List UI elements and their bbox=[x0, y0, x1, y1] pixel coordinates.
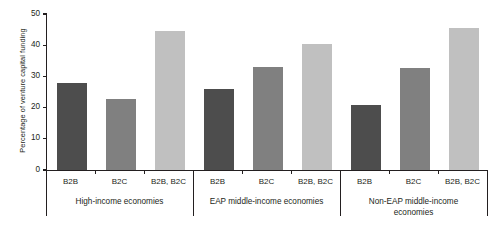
group-label-line: Non-EAP middle-income bbox=[340, 197, 487, 208]
x-axis-category-label: B2C bbox=[389, 177, 438, 186]
bar bbox=[155, 31, 185, 170]
y-tick-label: 20 bbox=[31, 102, 40, 111]
y-tick-mark bbox=[43, 138, 48, 139]
group-label: EAP middle-income economies bbox=[193, 197, 340, 208]
y-tick-label: 50 bbox=[31, 9, 40, 18]
x-tick-mark bbox=[389, 170, 390, 174]
y-tick-label: 10 bbox=[31, 133, 40, 142]
x-tick-mark bbox=[291, 170, 292, 174]
y-tick-label: 40 bbox=[31, 40, 40, 49]
bar bbox=[400, 68, 430, 170]
x-axis-category-label: B2C bbox=[95, 177, 144, 186]
plot-area: 01020304050 bbox=[47, 14, 487, 170]
y-tick-mark bbox=[43, 76, 48, 77]
bar bbox=[351, 105, 381, 170]
x-axis-category-label: B2B, B2C bbox=[291, 177, 340, 186]
bar bbox=[204, 89, 234, 170]
x-axis-category-label: B2B bbox=[46, 177, 95, 186]
y-tick-label: 0 bbox=[35, 165, 40, 174]
group-label: High-income economies bbox=[46, 197, 193, 208]
x-axis-category-label: B2B bbox=[340, 177, 389, 186]
y-tick-mark bbox=[43, 45, 48, 46]
bar bbox=[57, 83, 87, 170]
group-separator bbox=[46, 170, 47, 216]
group-label-line: High-income economies bbox=[46, 197, 193, 208]
y-tick-mark bbox=[43, 107, 48, 108]
group-label-line: EAP middle-income economies bbox=[193, 197, 340, 208]
x-tick-mark bbox=[438, 170, 439, 174]
x-tick-mark bbox=[95, 170, 96, 174]
bar bbox=[449, 28, 479, 170]
x-tick-mark bbox=[242, 170, 243, 174]
bar-chart: Percentage of venture capital funding 01… bbox=[0, 0, 495, 228]
group-label-line: economies bbox=[340, 208, 487, 219]
group-separator bbox=[487, 170, 488, 216]
group-label: Non-EAP middle-incomeeconomies bbox=[340, 197, 487, 218]
category-axis: B2BB2CB2B, B2CHigh-income economiesB2BB2… bbox=[46, 170, 487, 228]
bar bbox=[106, 99, 136, 170]
x-axis-category-label: B2B bbox=[193, 177, 242, 186]
y-tick-label: 30 bbox=[31, 71, 40, 80]
group-separator bbox=[193, 170, 194, 216]
bar bbox=[302, 44, 332, 170]
x-axis-category-label: B2B, B2C bbox=[438, 177, 487, 186]
x-tick-mark bbox=[144, 170, 145, 174]
bar bbox=[253, 67, 283, 170]
y-axis-title: Percentage of venture capital funding bbox=[18, 11, 27, 171]
x-axis-category-label: B2B, B2C bbox=[144, 177, 193, 186]
x-axis-category-label: B2C bbox=[242, 177, 291, 186]
y-tick-mark bbox=[43, 13, 48, 14]
